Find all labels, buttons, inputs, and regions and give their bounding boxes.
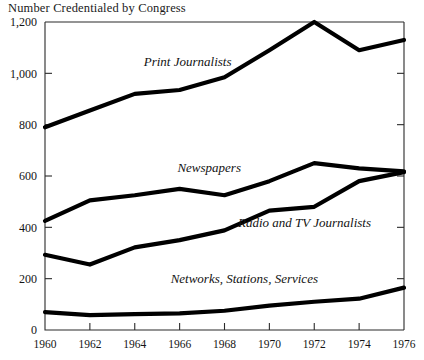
x-axis-ticks bbox=[90, 323, 359, 330]
line-chart-plot: Print JournalistsNewspapersRadio and TV … bbox=[0, 0, 424, 360]
x-axis-tick-label: 1970 bbox=[258, 338, 281, 350]
x-axis-labels: 196019621964196619681970197219741976 bbox=[34, 338, 416, 350]
x-axis-tick-label: 1976 bbox=[393, 338, 416, 350]
y-axis-tick-label: 200 bbox=[19, 272, 37, 286]
series-label-networks-stations-services: Networks, Stations, Services bbox=[170, 271, 318, 286]
x-axis-tick-label: 1974 bbox=[348, 338, 371, 350]
series-label-print-journalists: Print Journalists bbox=[143, 54, 232, 69]
chart-figure: Number Credentialed by Congress Print Jo… bbox=[0, 0, 424, 360]
x-axis-tick-label: 1968 bbox=[213, 338, 236, 350]
x-axis-tick-label: 1966 bbox=[168, 338, 191, 350]
x-axis-tick-label: 1960 bbox=[34, 338, 57, 350]
y-axis-labels: 02004006008001,0001,200 bbox=[10, 15, 37, 337]
y-axis-tick-label: 1,000 bbox=[10, 67, 37, 81]
y-axis-tick-label: 1,200 bbox=[10, 15, 37, 29]
series-line-networks-stations-services bbox=[45, 288, 404, 315]
series-label-newspapers: Newspapers bbox=[176, 160, 241, 175]
y-axis-tick-label: 600 bbox=[19, 169, 37, 183]
series-line-print-journalists bbox=[45, 22, 404, 127]
y-axis-ticks bbox=[45, 73, 404, 278]
x-axis-tick-label: 1962 bbox=[78, 338, 101, 350]
x-axis-tick-label: 1964 bbox=[123, 338, 146, 350]
x-axis-tick-label: 1972 bbox=[303, 338, 326, 350]
y-axis-tick-label: 800 bbox=[19, 118, 37, 132]
series-label-radio-and-tv-journalists: Radio and TV Journalists bbox=[237, 215, 371, 230]
y-axis-tick-label: 0 bbox=[31, 323, 37, 337]
y-axis-tick-label: 400 bbox=[19, 221, 37, 235]
